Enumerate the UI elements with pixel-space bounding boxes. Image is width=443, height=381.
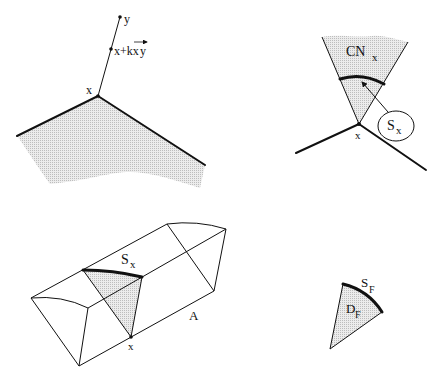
front-left-edge <box>31 298 79 366</box>
shaded-region <box>18 97 205 188</box>
label-apex-x: x <box>86 83 92 97</box>
label-cn-sub: x <box>372 51 378 63</box>
label-sx-sub: x <box>130 258 136 270</box>
point-y-dot <box>118 15 122 19</box>
panel-sector-diagram: S F D F <box>330 275 382 349</box>
label-apex-x: x <box>355 129 361 141</box>
apex-dot <box>357 122 361 126</box>
label-df: D <box>346 301 355 316</box>
front-right-edge <box>79 308 88 366</box>
figure-canvas: y x+kx y x CN x S x x <box>0 0 443 381</box>
label-sf: S <box>361 275 368 290</box>
label-sx: S <box>121 252 129 267</box>
panel-normal-cone-diagram: CN x S x x <box>296 36 426 170</box>
label-sf-sub: F <box>369 284 375 295</box>
label-x-plus-kxy: x+kx <box>114 44 139 58</box>
label-y: y <box>124 12 130 26</box>
panel-prism-diagram: S x A x <box>31 223 226 366</box>
back-right-edge <box>214 229 226 291</box>
point-mid-dot <box>109 47 113 51</box>
label-point-x: x <box>128 340 134 352</box>
point-x-dot <box>96 94 100 98</box>
label-sx-sub: x <box>396 124 402 136</box>
polyhedron-edge-left <box>296 124 359 153</box>
front-face-arc <box>31 297 88 308</box>
label-df-sub: F <box>355 309 361 320</box>
label-a: A <box>189 308 199 323</box>
back-diagonal-edge <box>167 224 214 291</box>
back-face-arc <box>167 223 226 229</box>
point-x-dot <box>129 335 133 339</box>
label-cn: CN <box>346 44 365 59</box>
label-vector-y: y <box>140 44 146 58</box>
panel-tangent-cone-diagram: y x+kx y x <box>17 12 205 188</box>
label-sx: S <box>387 118 395 133</box>
bottom-edge <box>79 291 214 366</box>
